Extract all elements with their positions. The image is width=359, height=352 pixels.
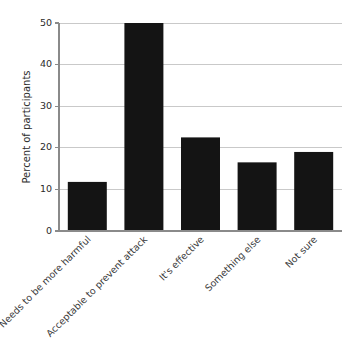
y-tick-label: 10 xyxy=(40,183,52,194)
y-tick-label: 30 xyxy=(40,100,52,111)
x-tick-label: Something else xyxy=(203,234,263,294)
bar xyxy=(181,137,220,231)
bars-group xyxy=(68,23,333,231)
bar xyxy=(124,23,163,231)
x-tick-label: It's effective xyxy=(157,234,206,283)
y-axis-title: Percent of participants xyxy=(21,70,32,183)
y-tick-label: 20 xyxy=(40,141,52,152)
x-axis-group: Needs to be more harmfulAcceptable to pr… xyxy=(0,231,342,339)
x-tick-label: Acceptable to prevent attack xyxy=(44,233,150,339)
x-tick-label: Needs to be more harmful xyxy=(0,234,93,330)
y-tick-label: 50 xyxy=(40,17,52,28)
y-tick-label: 0 xyxy=(46,225,52,236)
bar xyxy=(68,182,107,231)
x-tick-label: Not sure xyxy=(283,234,319,270)
bar xyxy=(294,152,333,231)
bar xyxy=(238,162,277,231)
chart-canvas: 01020304050 Needs to be more harmfulAcce… xyxy=(0,0,359,352)
bar-chart-figure: 01020304050 Needs to be more harmfulAcce… xyxy=(0,0,359,352)
y-axis-group: 01020304050 xyxy=(40,17,59,236)
y-tick-label: 40 xyxy=(40,58,52,69)
